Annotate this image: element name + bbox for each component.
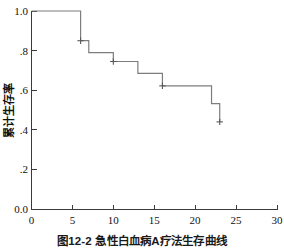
censor-marks-group [77,38,223,126]
y-axis-ticks [32,11,37,209]
x-tick-label: 10 [108,214,120,226]
survival-step-curve [32,11,220,122]
y-axis-title: 累计生存率 [2,83,15,138]
y-tick-label: 1.0 [14,5,28,17]
x-tick-label: 0 [29,214,35,226]
x-axis-group: 0 5 10 15 20 25 30 [29,205,283,227]
x-tick-label: 20 [190,214,202,226]
y-tick-label: .2 [20,163,28,175]
y-tick-label: .8 [20,45,29,57]
plot-area [32,11,223,125]
y-tick-label: .6 [20,84,29,96]
x-axis-tick-labels: 0 5 10 15 20 25 30 [29,214,283,226]
y-axis-group: 1.0 .8 .6 .4 .2 0.0 累计生存率 [2,5,37,215]
x-tick-label: 25 [231,214,243,226]
y-tick-label: 0.0 [14,203,28,215]
x-tick-label: 30 [272,214,284,226]
y-tick-label: .4 [20,124,29,136]
y-axis-tick-labels: 1.0 .8 .6 .4 .2 0.0 [14,5,28,215]
x-tick-label: 5 [70,214,76,226]
figure-caption: 图12-2 急性白血病A疗法生存曲线 [0,232,284,248]
x-tick-label: 15 [149,214,161,226]
x-axis-ticks [32,205,278,210]
